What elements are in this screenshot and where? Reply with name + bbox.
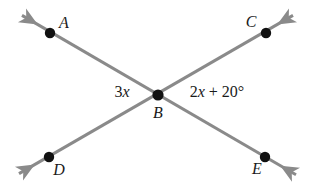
point-dot-c bbox=[261, 28, 271, 38]
point-dot-a bbox=[45, 28, 55, 38]
point-label-a: A bbox=[59, 15, 69, 31]
point-label-c: C bbox=[246, 14, 257, 30]
point-label-b: B bbox=[153, 105, 163, 121]
point-dot-b bbox=[152, 89, 163, 100]
angle-label-left: 3x bbox=[114, 84, 129, 100]
geometry-diagram: A C B D E 3x 2x + 20° bbox=[0, 0, 316, 190]
diagram-svg bbox=[0, 0, 316, 190]
angle-label-right: 2x + 20° bbox=[190, 84, 245, 100]
point-label-e: E bbox=[252, 161, 262, 177]
point-label-d: D bbox=[53, 162, 65, 178]
